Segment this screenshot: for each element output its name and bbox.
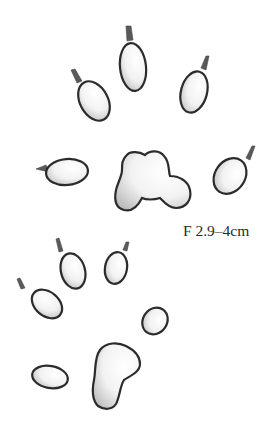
claw-icon (201, 56, 209, 70)
hind-track (17, 238, 173, 409)
toe-pad (30, 363, 69, 391)
toe-pad (207, 152, 253, 200)
toe-pad (26, 284, 67, 324)
front-track (36, 26, 255, 210)
claw-icon (56, 238, 63, 252)
claw-icon (17, 278, 25, 289)
toe-pad (102, 250, 129, 285)
claw-icon (246, 146, 255, 160)
toe-pad (57, 251, 89, 292)
toe-pad (72, 76, 116, 126)
toe-pad (118, 42, 149, 92)
claw-icon (71, 69, 82, 83)
toe-pad (45, 157, 89, 187)
toe-pad (176, 68, 212, 115)
tracks-illustration (0, 0, 275, 426)
palm-pad (115, 151, 190, 210)
claw-icon (126, 26, 133, 41)
toe-pad (137, 303, 173, 340)
heel-pad (93, 343, 140, 408)
claw-icon (123, 242, 129, 251)
front-track-size-label: F 2.9–4cm (183, 222, 249, 240)
